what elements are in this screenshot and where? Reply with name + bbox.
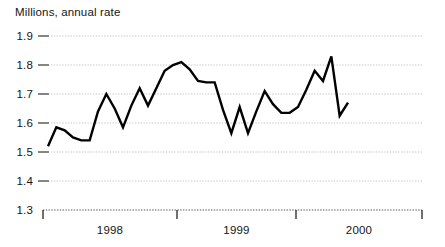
- y-axis-tick-label: 1.6: [16, 117, 33, 129]
- chart-container: Millions, annual rate 1.91.81.71.61.51.4…: [0, 0, 445, 247]
- x-axis-tick-label: 1999: [223, 224, 249, 236]
- y-axis-tick-label: 1.8: [16, 59, 33, 71]
- y-axis-labels-group: 1.91.81.71.61.51.41.3: [16, 30, 33, 216]
- x-axis-group: [43, 210, 422, 219]
- x-axis-labels-group: 199819992000: [97, 224, 372, 236]
- line-chart-plot: 1.91.81.71.61.51.41.3 199819992000: [0, 0, 445, 247]
- y-axis-tick-label: 1.4: [16, 175, 33, 187]
- data-series-line: [48, 56, 348, 146]
- y-axis-tick-label: 1.7: [16, 88, 33, 100]
- gridlines-group: [38, 36, 422, 181]
- y-axis-tick-label: 1.3: [16, 204, 33, 216]
- y-axis-tick-label: 1.5: [16, 146, 33, 158]
- x-axis-tick-label: 2000: [346, 224, 372, 236]
- x-axis-tick-label: 1998: [97, 224, 123, 236]
- y-axis-tick-label: 1.9: [16, 30, 33, 42]
